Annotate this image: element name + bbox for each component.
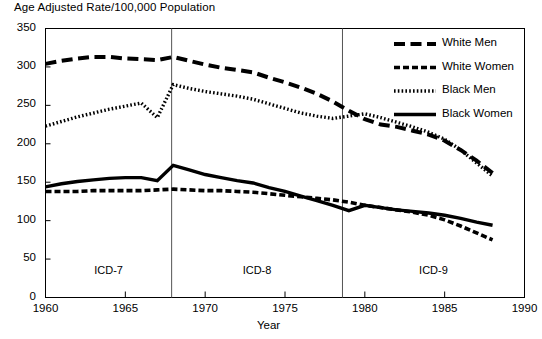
y-tick-label: 50 (2, 251, 36, 263)
x-tick-label: 1990 (503, 302, 542, 314)
era-label-icd-8: ICD-8 (217, 264, 297, 276)
era-label-icd-7: ICD-7 (69, 264, 149, 276)
legend-label-black-women: Black Women (442, 107, 513, 119)
series-line-white-women (46, 189, 493, 240)
x-axis-title: Year (0, 319, 537, 331)
x-axis-ticks (46, 292, 525, 298)
x-tick-label: 1970 (183, 302, 227, 314)
y-tick-label: 150 (2, 174, 36, 186)
era-label-icd-9: ICD-9 (393, 264, 473, 276)
y-tick-label: 300 (2, 59, 36, 71)
x-tick-label: 1975 (263, 302, 307, 314)
legend-swatches (394, 44, 436, 115)
chart-title: Age Adjusted Rate/100,000 Population (14, 1, 215, 13)
y-axis-ticks (46, 29, 51, 298)
x-tick-label: 1980 (343, 302, 387, 314)
legend-label-white-women: White Women (442, 60, 514, 72)
data-series-group (46, 57, 493, 240)
y-tick-label: 100 (2, 213, 36, 225)
y-tick-label: 0 (2, 290, 36, 302)
legend-label-white-men: White Men (442, 36, 497, 48)
y-tick-label: 200 (2, 136, 36, 148)
x-tick-label: 1985 (423, 302, 467, 314)
y-tick-label: 250 (2, 97, 36, 109)
legend-label-black-men: Black Men (442, 83, 496, 95)
era-divider-lines (172, 29, 343, 298)
x-tick-label: 1965 (103, 302, 147, 314)
y-tick-label: 350 (2, 21, 36, 33)
x-tick-label: 1960 (24, 302, 68, 314)
series-line-black-men (46, 85, 493, 176)
